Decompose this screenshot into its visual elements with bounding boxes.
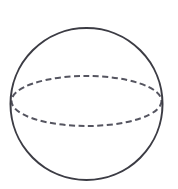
sphere-figure: [0, 0, 178, 189]
sphere-diagram-canvas: [0, 0, 178, 189]
